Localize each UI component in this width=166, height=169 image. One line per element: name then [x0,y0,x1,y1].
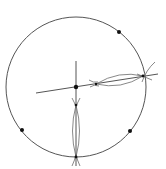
arc-tick-top-b [76,98,80,108]
circumference-point-bottom-left [20,128,24,132]
horizontal-lens-left-point [95,83,97,85]
lens-arc-left [73,105,77,157]
horizontal-lens-right-point [142,75,145,78]
arc-tick-left-b [90,85,99,87]
construction-svg [0,0,166,169]
vertical-lens-bottom-point [75,156,78,159]
diagram-canvas [0,0,166,169]
arc-tick-left-a [89,80,98,82]
arc-tick-top-a [72,98,76,108]
vertical-lens-top-point [75,104,77,106]
circumference-point-bottom-right [128,129,132,133]
center-point [74,85,78,89]
lens-arc-right [76,105,80,157]
circumference-point-top-right [117,30,121,34]
